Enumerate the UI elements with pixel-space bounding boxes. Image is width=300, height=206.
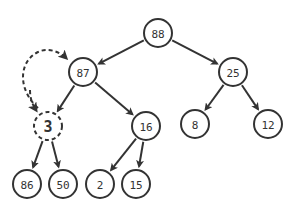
- node-label: 25: [226, 67, 239, 80]
- tree-node-16: 16: [132, 112, 160, 140]
- heap-tree-diagram: 8887253168128650215: [0, 0, 300, 206]
- edge-n87-n16: [95, 82, 132, 114]
- tree-node-25: 25: [219, 58, 247, 86]
- edge-n16-n15: [139, 142, 143, 166]
- tree-node-8: 8: [181, 110, 209, 138]
- edge-n25-n8: [206, 85, 224, 110]
- edge-n3-n50: [52, 141, 58, 166]
- node-label: 8: [192, 119, 199, 132]
- node-label: 2: [97, 179, 104, 192]
- node-label: 15: [129, 179, 142, 192]
- node-label: 3: [43, 118, 52, 136]
- edge-n3-n86: [33, 141, 42, 167]
- node-label: 16: [139, 121, 152, 134]
- edge-n87-n3: [58, 85, 75, 110]
- nodes-layer: 8887253168128650215: [13, 19, 282, 198]
- tree-node-88: 88: [144, 19, 172, 47]
- node-label: 88: [151, 28, 164, 41]
- tree-node-15: 15: [122, 170, 150, 198]
- swap-arrow-down: [30, 90, 36, 110]
- tree-node-2: 2: [86, 170, 114, 198]
- node-label: 50: [56, 179, 69, 192]
- edges-layer: [33, 40, 258, 170]
- tree-node-12: 12: [254, 110, 282, 138]
- edge-n25-n12: [242, 85, 258, 109]
- swap-arrow: [23, 50, 66, 108]
- node-label: 86: [20, 179, 33, 192]
- edge-n88-n87: [99, 40, 144, 63]
- tree-node-86: 86: [13, 170, 41, 198]
- edge-n88-n25: [172, 40, 217, 63]
- node-label: 12: [261, 119, 274, 132]
- edge-n16-n2: [111, 139, 136, 170]
- tree-node-50: 50: [49, 170, 77, 198]
- node-label: 87: [76, 67, 89, 80]
- tree-node-87: 87: [69, 58, 97, 86]
- tree-node-3: 3: [34, 112, 62, 140]
